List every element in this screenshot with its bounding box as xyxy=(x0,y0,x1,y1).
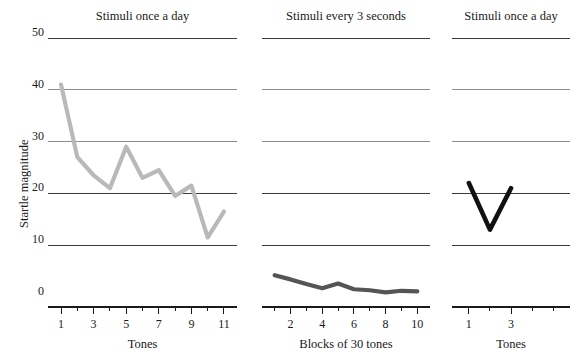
ytick-label-40: 40 xyxy=(26,78,44,90)
ytick-label-30: 30 xyxy=(26,130,44,142)
ytick-label-10: 10 xyxy=(26,233,44,245)
xtick-label-panel2-2: 2 xyxy=(276,318,306,330)
x-axis-title-panel-3: Tones xyxy=(411,338,583,351)
series-line-panel-2 xyxy=(275,275,418,292)
ytick-label-50: 50 xyxy=(26,26,44,38)
xtick-label-panel2-4: 4 xyxy=(307,318,337,330)
panel-title-1: Stimuli once a day xyxy=(33,10,253,23)
xtick-label-panel1-3: 3 xyxy=(79,318,109,330)
x-axis-title-panel-1: Tones xyxy=(43,338,243,351)
ytick-label-20: 20 xyxy=(26,181,44,193)
xtick-label-panel2-8: 8 xyxy=(371,318,401,330)
xtick-label-panel3-3: 3 xyxy=(496,318,526,330)
xtick-label-panel1-7: 7 xyxy=(144,318,174,330)
xtick-label-panel2-6: 6 xyxy=(339,318,369,330)
xtick-label-panel1-9: 9 xyxy=(176,318,206,330)
startle-habituation-figure: Startle magnitude Stimuli once a day1357… xyxy=(0,0,583,355)
xtick-label-panel1-5: 5 xyxy=(111,318,141,330)
series-line-panel-3 xyxy=(469,183,511,230)
series-line-panel-1 xyxy=(61,85,224,238)
plot-canvas xyxy=(0,0,583,355)
ytick-label-0: 0 xyxy=(26,285,44,297)
panel-title-3: Stimuli once a day xyxy=(401,10,583,23)
xtick-label-panel2-10: 10 xyxy=(402,318,432,330)
xtick-label-panel1-11: 11 xyxy=(209,318,239,330)
xtick-label-panel3-1: 1 xyxy=(454,318,484,330)
xtick-label-panel1-1: 1 xyxy=(46,318,76,330)
